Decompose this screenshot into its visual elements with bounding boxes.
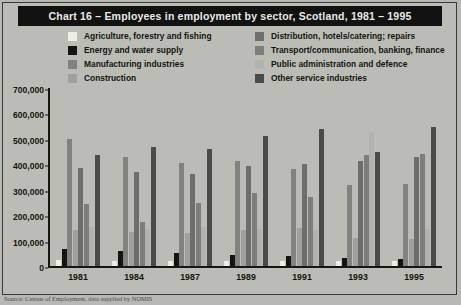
y-axis-tick-label: 200,000 (13, 212, 44, 222)
bar[interactable] (347, 185, 352, 266)
bar[interactable] (230, 255, 235, 266)
bar[interactable] (174, 253, 179, 266)
bar[interactable] (84, 204, 89, 266)
bar[interactable] (140, 222, 145, 266)
source-note: Source: Census of Employment, data suppl… (4, 295, 152, 302)
page-title: Chart 16 – Employees in employment by se… (49, 10, 412, 22)
bar[interactable] (353, 238, 358, 266)
bar[interactable] (145, 229, 150, 266)
bar[interactable] (409, 239, 414, 266)
legend-item-label: Distribution, hotels/catering; repairs (271, 32, 415, 41)
x-axis-tick-label: 1993 (348, 272, 368, 282)
x-axis-tick-label: 1995 (404, 272, 424, 282)
y-axis-tick-mark (45, 242, 48, 243)
bar[interactable] (179, 163, 184, 266)
bar[interactable] (297, 228, 302, 266)
legend-item[interactable]: Construction (68, 72, 212, 84)
legend-column-right: Distribution, hotels/catering; repairsTr… (255, 30, 445, 84)
y-axis-tick-mark (45, 115, 48, 116)
bar[interactable] (118, 251, 123, 266)
y-axis-tick-label: 500,000 (13, 136, 44, 146)
bar[interactable] (241, 230, 246, 266)
legend-item[interactable]: Energy and water supply (68, 44, 212, 56)
bar[interactable] (414, 157, 419, 266)
bar[interactable] (67, 139, 72, 266)
bar[interactable] (207, 149, 212, 266)
legend-item-label: Other service industries (271, 74, 367, 83)
bar[interactable] (89, 227, 94, 266)
legend-item[interactable]: Manufacturing industries (68, 58, 212, 70)
bar[interactable] (313, 230, 318, 266)
bar[interactable] (369, 132, 374, 266)
chart-title-bar: Chart 16 – Employees in employment by se… (18, 6, 442, 26)
bar[interactable] (168, 261, 173, 266)
bar[interactable] (196, 203, 201, 266)
bar[interactable] (398, 259, 403, 266)
bar[interactable] (78, 168, 83, 266)
y-axis-tick-label: 600,000 (13, 110, 44, 120)
bar[interactable] (190, 174, 195, 266)
bar[interactable] (392, 261, 397, 266)
legend-item[interactable]: Transport/communication, banking, financ… (255, 44, 445, 56)
y-axis-tick-mark (45, 268, 48, 269)
bar[interactable] (403, 184, 408, 266)
bar[interactable] (286, 256, 291, 266)
legend-swatch-icon (255, 46, 264, 55)
x-axis-tick-label: 1987 (180, 272, 200, 282)
bar[interactable] (56, 260, 61, 266)
bar[interactable] (280, 261, 285, 266)
legend-item-label: Agriculture, forestry and fishing (84, 32, 212, 41)
bar[interactable] (342, 258, 347, 266)
bar[interactable] (112, 261, 117, 266)
bar[interactable] (257, 229, 262, 266)
bar[interactable] (364, 155, 369, 266)
legend-item[interactable]: Distribution, hotels/catering; repairs (255, 30, 445, 42)
bar-group (386, 88, 442, 266)
x-axis-tick-label: 1991 (292, 272, 312, 282)
x-axis (48, 266, 442, 268)
bars-container (50, 88, 442, 266)
bar-group (50, 88, 106, 266)
bar-group (330, 88, 386, 266)
bar[interactable] (95, 155, 100, 266)
legend-swatch-icon (68, 32, 77, 41)
bar-group (218, 88, 274, 266)
bar[interactable] (308, 197, 313, 266)
y-axis-tick-label: 300,000 (13, 187, 44, 197)
bar[interactable] (246, 166, 251, 266)
bar[interactable] (224, 261, 229, 266)
legend-item[interactable]: Agriculture, forestry and fishing (68, 30, 212, 42)
bar[interactable] (336, 261, 341, 266)
bar[interactable] (358, 161, 363, 266)
bar[interactable] (291, 169, 296, 266)
chart-screenshot: Chart 16 – Employees in employment by se… (0, 0, 461, 305)
bar[interactable] (185, 233, 190, 266)
bar[interactable] (375, 152, 380, 266)
bar-group (274, 88, 330, 266)
y-axis-tick-label: 700,000 (13, 85, 44, 95)
bar[interactable] (252, 193, 257, 266)
legend-item[interactable]: Public administration and defence (255, 58, 445, 70)
bar[interactable] (302, 164, 307, 266)
bar[interactable] (151, 147, 156, 267)
bar[interactable] (420, 154, 425, 266)
legend-swatch-icon (68, 60, 77, 69)
bar[interactable] (431, 127, 436, 266)
bar[interactable] (62, 249, 67, 266)
legend-column-left: Agriculture, forestry and fishingEnergy … (68, 30, 212, 84)
bar[interactable] (123, 157, 128, 266)
bar[interactable] (235, 161, 240, 266)
legend-swatch-icon (255, 32, 264, 41)
legend-item-label: Energy and water supply (84, 46, 183, 55)
legend-item[interactable]: Other service industries (255, 72, 445, 84)
bar[interactable] (201, 227, 206, 266)
bar[interactable] (129, 232, 134, 266)
legend-item-label: Construction (84, 74, 136, 83)
bar[interactable] (134, 172, 139, 266)
bar[interactable] (319, 129, 324, 266)
y-axis-tick-mark (45, 191, 48, 192)
bar[interactable] (425, 229, 430, 266)
bar[interactable] (73, 230, 78, 266)
legend-item-label: Transport/communication, banking, financ… (271, 46, 445, 55)
bar[interactable] (263, 136, 268, 266)
